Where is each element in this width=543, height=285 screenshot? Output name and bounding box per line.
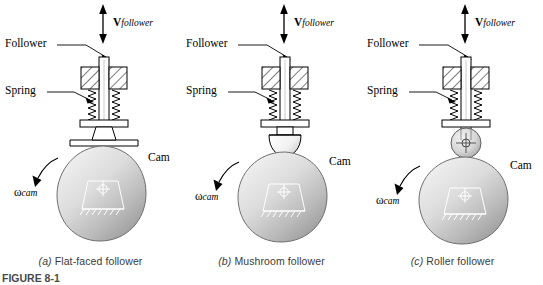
omega-arrow xyxy=(33,158,59,187)
panel-c-caption-index: (c) xyxy=(411,255,424,267)
spring-right xyxy=(112,90,120,120)
figure-canvas: Follower Spring Cam Vfollower ωcam (a) F… xyxy=(0,0,543,285)
omega-cam-label: ωcam xyxy=(195,191,218,203)
follower-stem xyxy=(461,57,471,130)
spring-left xyxy=(269,90,277,120)
panel-c-caption: (c) Roller follower xyxy=(362,255,543,267)
follower-stem xyxy=(99,57,109,130)
guide-block-right xyxy=(290,67,308,89)
omega-cam-label: ωcam xyxy=(14,187,37,199)
spring-label: Spring xyxy=(186,85,217,97)
velocity-arrow xyxy=(99,4,107,44)
omega-arrow xyxy=(395,166,421,195)
spring-retainer-plate xyxy=(261,120,309,127)
omega-symbol: ω xyxy=(195,190,203,202)
velocity-follower-label: Vfollower xyxy=(294,17,334,29)
spring-leader-line xyxy=(47,92,94,104)
spring-right xyxy=(474,90,482,120)
spring-leader-line xyxy=(228,92,275,104)
cam-label: Cam xyxy=(148,152,170,164)
follower-label: Follower xyxy=(5,38,47,50)
spring-retainer-plate xyxy=(442,120,490,127)
panel-a-caption: (a) Flat-faced follower xyxy=(0,255,181,267)
velocity-follower-label: Vfollower xyxy=(113,17,153,29)
panel-flat-faced-follower: Follower Spring Cam Vfollower ωcam (a) F… xyxy=(0,0,181,285)
follower-label: Follower xyxy=(367,38,409,50)
follower-stem xyxy=(280,57,290,123)
cam-body xyxy=(57,146,146,241)
spring-left xyxy=(450,90,458,120)
omega-cam-label: ωcam xyxy=(376,195,399,207)
spring-leader-line xyxy=(409,92,456,104)
omega-subscript: cam xyxy=(22,188,38,198)
panel-b-caption-index: (b) xyxy=(218,255,231,267)
spring-label: Spring xyxy=(5,85,36,97)
cam-label: Cam xyxy=(510,160,532,172)
velocity-subscript: follower xyxy=(121,18,153,28)
spring-retainer-plate xyxy=(80,120,128,127)
cam-body xyxy=(238,152,327,242)
cam-label: Cam xyxy=(329,156,351,168)
velocity-subscript: follower xyxy=(302,18,334,28)
figure-caption: FIGURE 8-1 xyxy=(2,272,60,285)
spring-right xyxy=(293,90,301,120)
velocity-subscript: follower xyxy=(483,18,515,28)
panel-mushroom-follower: Follower Spring Cam Vfollower ωcam (b) M… xyxy=(181,0,362,285)
omega-subscript: cam xyxy=(384,196,400,206)
omega-symbol: ω xyxy=(14,186,22,198)
cam-body xyxy=(419,157,508,244)
omega-symbol: ω xyxy=(376,194,384,206)
omega-arrow xyxy=(214,162,240,191)
panel-a-caption-index: (a) xyxy=(39,255,52,267)
velocity-arrow xyxy=(280,4,288,44)
guide-block-right xyxy=(471,67,489,89)
follower-label: Follower xyxy=(186,38,228,50)
panel-b-caption-text: Mushroom follower xyxy=(234,255,324,267)
velocity-arrow xyxy=(461,4,469,44)
spring-label: Spring xyxy=(367,85,398,97)
spring-left xyxy=(88,90,96,120)
guide-block-left xyxy=(443,67,461,89)
omega-subscript: cam xyxy=(203,192,219,202)
panel-a-caption-text: Flat-faced follower xyxy=(55,255,143,267)
panel-b-caption: (b) Mushroom follower xyxy=(181,255,362,267)
guide-block-right xyxy=(109,67,127,89)
guide-block-left xyxy=(81,67,99,89)
panel-c-caption-text: Roller follower xyxy=(426,255,494,267)
guide-block-left xyxy=(262,67,280,89)
flat-face-plate xyxy=(70,127,138,146)
velocity-follower-label: Vfollower xyxy=(475,17,515,29)
roller-wheel xyxy=(451,127,481,158)
panel-roller-follower: Follower Spring Cam Vfollower ωcam (c) R… xyxy=(362,0,543,285)
